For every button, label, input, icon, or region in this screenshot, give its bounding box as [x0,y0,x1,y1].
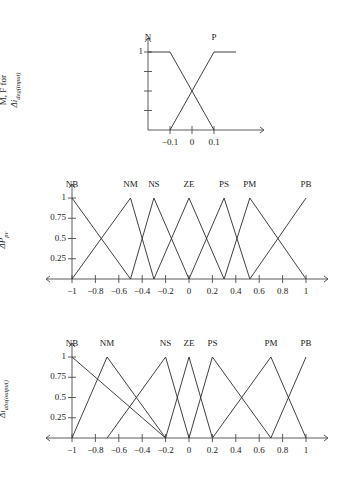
membership-curve-p [170,52,236,130]
y-axis-tick-label: 0.75 [50,371,66,381]
membership-curve-n [148,52,214,130]
membership-curve-ps [189,198,250,279]
membership-label-nm: NM [87,338,127,348]
membership-label-nb: NB [52,338,92,348]
membership-label-ns: NS [134,179,174,189]
membership-label-pb: PB [286,179,326,189]
membership-curve-nb [72,357,166,438]
membership-label-n: N [128,32,168,42]
membership-curve-ps [189,357,271,438]
chart-mf-delta-i-deg-input: M, F forΔideg(input) 1−0.100.1NP [0,0,343,160]
membership-curve-ns [131,198,190,279]
y-axis-tick-label: 0.25 [50,253,66,263]
membership-curve-pm [224,198,306,279]
y-axis-tick-label: 0.75 [50,212,66,222]
y-axis-tick-label: 0.5 [55,392,66,402]
chart-mf-delta-p-pv: M, F forΔPpv 0.250.50.751−1−0.8−0.6−0.4−… [0,160,343,319]
y-axis-tick-label: 1 [62,351,67,361]
x-axis-tick-label: 1 [286,286,326,296]
membership-curve-pm [212,357,306,438]
membership-label-pm: PM [230,179,270,189]
plot-area-1 [0,0,343,160]
chart-mf-delta-i-abs-output: M, F forΔiabs(output) 0.250.50.751−1−0.8… [0,319,343,478]
membership-curve-ze [166,357,213,438]
membership-label-p: P [194,32,234,42]
membership-label-ze: ZE [169,179,209,189]
membership-label-pm: PM [251,338,291,348]
y-axis-tick-label: 1 [139,46,144,56]
y-axis-tick-label: 0.5 [55,233,66,243]
membership-label-nb: NB [52,179,92,189]
membership-label-ps: PS [192,338,232,348]
fuzzy-membership-figure: M, F forΔideg(input) 1−0.100.1NP M, F fo… [0,0,343,478]
x-axis-tick-label: 0.1 [194,137,234,147]
membership-curve-nm [72,198,154,279]
y-axis-tick-label: 0.25 [50,412,66,422]
membership-label-pb: PB [286,338,326,348]
x-axis-tick-label: 1 [286,445,326,455]
membership-curve-ze [154,198,224,279]
y-axis-tick-label: 1 [62,192,67,202]
